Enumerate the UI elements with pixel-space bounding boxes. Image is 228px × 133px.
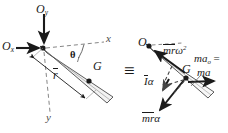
label-angle-theta: θ [70, 50, 75, 61]
centroid-G-right [183, 75, 188, 80]
rod-left [40, 46, 113, 103]
label-centroid-G-left: G [93, 60, 102, 72]
label-pivot-O-right: O [138, 36, 147, 48]
label-centroid-G-right: G [182, 63, 191, 75]
equivalence-symbol: ≡ [124, 60, 135, 82]
label-axis-y: y [46, 112, 51, 123]
label-normal-force: mrω2 [163, 45, 186, 56]
y-axis-dashed [44, 52, 50, 112]
x-axis-dashed [46, 42, 104, 48]
construction-dash-c [174, 79, 186, 93]
dynamics-figure: Oy Ox x y θ r G ≡ O mrω2 mao = ma G Iα m… [0, 0, 228, 133]
label-reaction-Oy: Oy [36, 3, 48, 16]
rbar-extension-a [33, 48, 43, 57]
label-reaction-Ox: Ox [2, 40, 14, 53]
resultant-ma-arrow [188, 81, 214, 82]
label-tangential-force: mrα [142, 113, 160, 124]
label-axis-x: x [106, 33, 111, 44]
couple-Ialpha-arrow [163, 79, 169, 90]
label-effective-force: mao = [194, 53, 220, 65]
figure-canvas [0, 0, 228, 133]
label-rbar: r [53, 69, 58, 81]
label-resultant-ma: ma [197, 67, 210, 78]
label-couple-Ialpha: Iα [144, 76, 153, 87]
rbar-extension-b [86, 90, 96, 99]
angle-theta-arc [79, 45, 85, 59]
pivot-point-right [146, 43, 151, 48]
centroid-G-left [86, 78, 91, 83]
